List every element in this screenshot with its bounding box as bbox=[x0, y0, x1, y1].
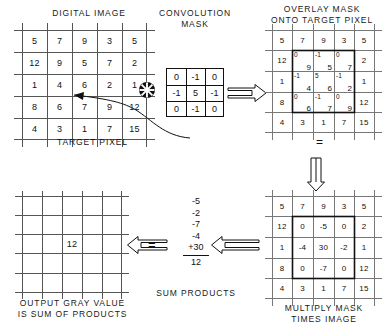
table-cell: 12 bbox=[272, 216, 292, 237]
table-cell: 12 bbox=[354, 258, 374, 278]
mask-cell: 0 bbox=[205, 101, 224, 116]
table-cell: 1 bbox=[272, 237, 292, 258]
table-cell: 9 bbox=[313, 196, 334, 216]
overlay-image-value: 7 bbox=[328, 104, 332, 113]
table-cell: 5 bbox=[272, 196, 292, 216]
table-cell: 7 bbox=[97, 52, 122, 74]
table-cell: 12 bbox=[354, 92, 374, 112]
overlay-cell: 0 9 bbox=[335, 93, 354, 112]
table-cell: 1 bbox=[22, 74, 47, 96]
overlay-image-value: 6 bbox=[307, 104, 311, 113]
mask-cell: 0 bbox=[205, 69, 224, 85]
table-cell: 5 bbox=[122, 30, 147, 52]
table-cell: 7 bbox=[334, 278, 354, 298]
overlay-grid: 5 7 9 3 5 12 2 1 1 8 12 4 3 1 7 15 0 9 -… bbox=[272, 30, 375, 133]
product-cell: -5 bbox=[313, 216, 334, 237]
mask-cell: -1 bbox=[186, 69, 205, 85]
table-cell: 3 bbox=[334, 30, 354, 50]
overlay-image-value: 7 bbox=[348, 63, 352, 72]
overlay-cell: 5 6 bbox=[314, 72, 334, 92]
target-pixel-label: TARGET PIXEL bbox=[57, 137, 128, 147]
table-cell: 9 bbox=[47, 52, 72, 74]
overlay-cell: 0 7 bbox=[335, 51, 354, 71]
sum-products-caption: SUM PRODUCTS bbox=[151, 288, 241, 299]
table-cell: 8 bbox=[22, 96, 47, 118]
table-cell: 3 bbox=[292, 112, 313, 132]
sum-term: +30 bbox=[176, 242, 216, 254]
mask-cell: 0 bbox=[167, 69, 186, 85]
digital-image-caption: DIGITAL IMAGE bbox=[14, 8, 164, 19]
table-cell: 3 bbox=[292, 278, 313, 298]
overlay-cell: -1 4 bbox=[293, 72, 313, 92]
product-cell: 0 bbox=[292, 216, 313, 237]
mask-cell: 0 bbox=[167, 101, 186, 116]
table-cell: 1 bbox=[354, 237, 374, 258]
output-grid: 12 bbox=[22, 196, 122, 293]
overlay-cell: -1 2 bbox=[335, 72, 354, 92]
convolution-mask-caption: CONVOLUTION MASK bbox=[150, 8, 240, 30]
mask-cell: 5 bbox=[186, 85, 205, 101]
mask-cell: -1 bbox=[186, 101, 205, 116]
table-cell: 15 bbox=[354, 112, 374, 132]
table-cell: 7 bbox=[292, 196, 313, 216]
multiply-grid: 5 7 9 3 5 12 0 -5 0 2 1 -4 30 -2 1 8 0 -… bbox=[272, 196, 375, 299]
table-cell: 1 bbox=[313, 112, 334, 132]
overlay-mask-value: 5 bbox=[315, 72, 319, 80]
table-cell: 12 bbox=[22, 52, 47, 74]
overlay-image-value: 4 bbox=[307, 84, 311, 93]
table-cell: 1 bbox=[313, 278, 334, 298]
overlay-caption: OVERLAY MASK ONTO TARGET PIXEL bbox=[262, 4, 382, 26]
overlay-mask-value: -1 bbox=[315, 51, 321, 59]
table-cell: 5 bbox=[72, 52, 97, 74]
table-cell: 4 bbox=[272, 278, 292, 298]
multiply-caption: MULTIPLY MASK TIMES IMAGE bbox=[264, 303, 384, 325]
sum-rule-divider bbox=[183, 255, 209, 256]
overlay-mask-value: 0 bbox=[294, 93, 298, 101]
sum-term: -5 bbox=[176, 196, 216, 208]
overlay-cell: 0 6 bbox=[293, 93, 313, 112]
overlay-cell: 0 9 bbox=[293, 51, 313, 71]
arrow-left-sum-to-output-icon bbox=[127, 236, 167, 256]
sum-term: -7 bbox=[176, 219, 216, 231]
sum-products-column: -5 -2 -7 -4 +30 12 bbox=[176, 196, 216, 268]
overlay-cell: -1 5 bbox=[314, 51, 334, 71]
arrow-left-multiply-to-sum-icon bbox=[211, 236, 259, 256]
table-cell: 5 bbox=[354, 196, 374, 216]
overlay-mask-value: -1 bbox=[336, 72, 342, 80]
table-cell: 3 bbox=[97, 30, 122, 52]
product-cell: -7 bbox=[313, 258, 334, 278]
table-cell: 1 bbox=[272, 71, 292, 92]
table-cell: 8 bbox=[272, 92, 292, 112]
overlay-image-value: 9 bbox=[307, 63, 311, 72]
product-cell: 0 bbox=[334, 216, 354, 237]
overlay-mask-value: -1 bbox=[315, 93, 321, 101]
table-cell: 4 bbox=[272, 112, 292, 132]
overlay-image-value: 2 bbox=[348, 84, 352, 93]
overlay-mask-value: 0 bbox=[336, 93, 340, 101]
overlay-mask-value: 0 bbox=[336, 51, 340, 59]
equals-sign-overlay: = bbox=[316, 136, 323, 148]
overlay-cell: -1 7 bbox=[314, 93, 334, 112]
overlay-image-value: 9 bbox=[348, 104, 352, 113]
sum-term: -4 bbox=[176, 231, 216, 243]
table-cell: 9 bbox=[72, 30, 97, 52]
table-cell: 12 bbox=[272, 50, 292, 71]
table-cell: 1 bbox=[354, 71, 374, 92]
overlay-mask-value: -1 bbox=[294, 72, 300, 80]
arrow-right-icon bbox=[228, 84, 268, 104]
product-cell: -2 bbox=[334, 237, 354, 258]
convolution-mask-grid: 0 -1 0 -1 5 -1 0 -1 0 bbox=[166, 68, 224, 117]
product-cell: -4 bbox=[292, 237, 313, 258]
product-cell: 30 bbox=[313, 237, 334, 258]
table-cell: 7 bbox=[334, 112, 354, 132]
overlay-mask-value: 0 bbox=[294, 51, 298, 59]
product-cell: 0 bbox=[292, 258, 313, 278]
table-cell: 7 bbox=[47, 30, 72, 52]
table-cell: 9 bbox=[313, 30, 334, 50]
output-caption: OUTPUT GRAY VALUE IS SUM OF PRODUCTS bbox=[10, 298, 135, 320]
product-cell: 0 bbox=[334, 258, 354, 278]
overlay-image-value: 6 bbox=[328, 84, 332, 93]
table-cell: 4 bbox=[22, 118, 47, 139]
mask-cell: -1 bbox=[205, 85, 224, 101]
arrow-down-icon bbox=[307, 158, 327, 192]
